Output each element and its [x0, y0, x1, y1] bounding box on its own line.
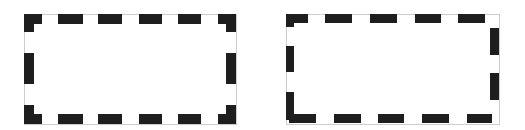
border-dash: [24, 53, 34, 84]
border-dash: [139, 114, 162, 124]
border-dash: [458, 14, 485, 23]
border-dash: [415, 14, 441, 23]
border-dash: [178, 14, 201, 24]
border-dash: [370, 14, 397, 23]
border-dash: [218, 114, 236, 124]
border-dash: [24, 114, 42, 124]
border-dash: [178, 114, 201, 124]
dashed-rectangle-right: [286, 14, 500, 125]
border-dash: [378, 114, 404, 123]
border-dash: [286, 14, 294, 27]
border-dash: [467, 114, 492, 123]
border-dash: [58, 114, 83, 124]
border-dash: [289, 114, 316, 123]
border-dash: [286, 46, 294, 72]
border-dash: [490, 28, 499, 55]
border-dash: [98, 114, 122, 124]
border-dash: [226, 53, 236, 84]
border-dash: [58, 14, 83, 24]
dotted-outline: [25, 15, 237, 125]
border-dash: [490, 73, 499, 100]
border-dash: [334, 114, 361, 123]
border-dash: [24, 14, 34, 32]
border-dash: [98, 14, 122, 24]
diagram-canvas: [0, 0, 525, 130]
border-dash: [139, 14, 162, 24]
border-dash: [226, 14, 236, 32]
border-dash: [325, 14, 352, 23]
dotted-outline: [287, 15, 500, 125]
border-dash: [422, 114, 449, 123]
dashed-rectangle-left: [24, 14, 237, 125]
